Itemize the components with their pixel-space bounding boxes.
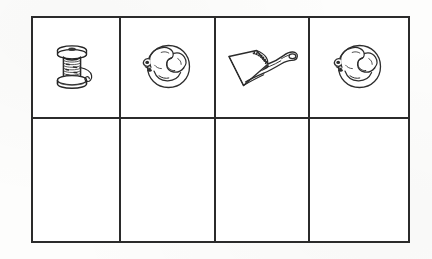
curled-squirrel-icon	[137, 37, 199, 99]
dustpan-icon	[223, 40, 301, 96]
grid-cell-bottom-1[interactable]	[33, 119, 121, 241]
grid-cell-top-2[interactable]	[121, 18, 216, 119]
picture-grid	[31, 16, 410, 243]
worksheet-page	[0, 0, 432, 259]
curled-squirrel-icon	[328, 37, 390, 99]
grid-cell-top-3[interactable]	[216, 18, 310, 119]
grid-cell-bottom-3[interactable]	[216, 119, 310, 241]
thread-spool-icon	[45, 37, 107, 99]
grid-cell-top-1[interactable]	[33, 18, 121, 119]
grid-cell-bottom-4[interactable]	[310, 119, 408, 241]
grid-cell-bottom-2[interactable]	[121, 119, 216, 241]
grid-cell-top-4[interactable]	[310, 18, 408, 119]
